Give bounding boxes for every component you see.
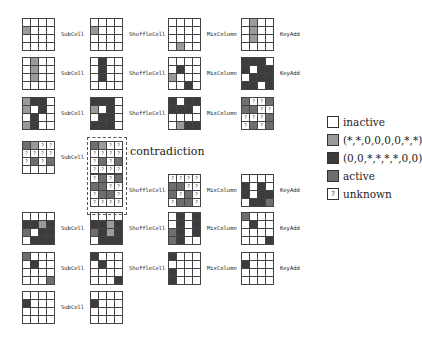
cell: [31, 74, 38, 81]
operation-label: SubCell: [61, 70, 84, 76]
cell: [266, 114, 273, 121]
cell: [39, 316, 46, 323]
cell: [91, 122, 98, 129]
state-grid: [241, 252, 274, 285]
cell: [31, 229, 38, 236]
cell: [107, 66, 114, 73]
cell: [99, 292, 106, 299]
cell: [258, 98, 265, 105]
cell: [31, 150, 38, 157]
cell: [177, 199, 184, 206]
cell: [250, 43, 257, 50]
cell: [39, 19, 46, 26]
cell: [99, 58, 106, 65]
cell: [242, 19, 249, 26]
cell: [47, 308, 54, 315]
cell: [177, 213, 184, 220]
cell: [185, 221, 192, 228]
cell: [258, 221, 265, 228]
cell: [193, 269, 200, 276]
cell: [242, 106, 249, 113]
cell: [31, 82, 38, 89]
cell: [185, 183, 192, 190]
cell: [39, 150, 46, 157]
cell: [266, 27, 273, 34]
cell: [39, 98, 46, 105]
cell: [31, 106, 38, 113]
cell: [31, 221, 38, 228]
cell: [169, 74, 176, 81]
cell: [47, 229, 54, 236]
state-grid: [22, 212, 55, 245]
cell: [31, 158, 38, 165]
cell: [31, 253, 38, 260]
cell: [107, 122, 114, 129]
state-grid: [168, 97, 201, 130]
cell: [193, 237, 200, 244]
cell: [242, 277, 249, 284]
cell: [177, 27, 184, 34]
cell: [266, 74, 273, 81]
cell: [47, 82, 54, 89]
state-grid: [22, 97, 55, 130]
state-grid: [90, 57, 123, 90]
cell: [185, 122, 192, 129]
cell: [242, 269, 249, 276]
cell: [177, 35, 184, 42]
cell: [107, 316, 114, 323]
cell: [99, 261, 106, 268]
cell: [250, 237, 257, 244]
cell: [23, 142, 30, 149]
cell: [47, 66, 54, 73]
cell: [91, 237, 98, 244]
cell: [99, 19, 106, 26]
cell: [258, 35, 265, 42]
cell: [177, 58, 184, 65]
cell: [47, 277, 54, 284]
cell: [39, 221, 46, 228]
cell: [115, 237, 122, 244]
cell: [23, 66, 30, 73]
cell: [185, 58, 192, 65]
cell: [31, 122, 38, 129]
cell: [250, 261, 257, 268]
cell: [23, 114, 30, 121]
cell: [266, 199, 273, 206]
cell: [193, 221, 200, 228]
cell: [47, 261, 54, 268]
cell: [23, 150, 30, 157]
cell: [177, 106, 184, 113]
cell: [115, 229, 122, 236]
legend-text: inactive: [343, 116, 385, 128]
cell: [23, 269, 30, 276]
cell: [23, 237, 30, 244]
cell: [47, 221, 54, 228]
cell: [242, 82, 249, 89]
cell: [39, 277, 46, 284]
cell: [23, 261, 30, 268]
cell: [23, 253, 30, 260]
cell: [266, 261, 273, 268]
cell: [185, 261, 192, 268]
cell: [193, 229, 200, 236]
cell: [91, 27, 98, 34]
cell: [115, 253, 122, 260]
cell: [185, 213, 192, 220]
cell: [185, 269, 192, 276]
cell: [23, 292, 30, 299]
legend-item: ?unknown: [327, 188, 392, 200]
cell: [23, 82, 30, 89]
cell: [169, 229, 176, 236]
cell: [91, 292, 98, 299]
cell: [250, 175, 257, 182]
cell: [39, 142, 46, 149]
cell: [107, 308, 114, 315]
cell: [169, 98, 176, 105]
state-grid: [22, 252, 55, 285]
cell: [193, 213, 200, 220]
cell: [185, 66, 192, 73]
cell: [177, 261, 184, 268]
cell: [242, 43, 249, 50]
cell: [250, 183, 257, 190]
cell: [23, 213, 30, 220]
